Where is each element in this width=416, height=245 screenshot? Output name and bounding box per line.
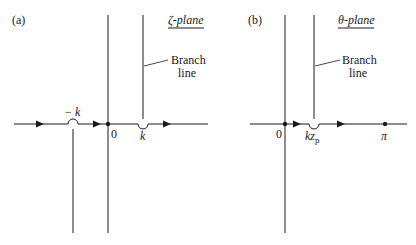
branch-label-a-2: line	[178, 66, 196, 80]
origin-dot-a	[106, 122, 110, 126]
theta-plane-title-text: θ-plane	[338, 13, 375, 27]
panel-a-label: (a)	[12, 13, 25, 27]
theta-plane-title: θ-plane	[338, 13, 375, 27]
arrow-icon	[337, 121, 345, 128]
origin-label-a: 0	[111, 127, 117, 141]
panel-b-label: (b)	[248, 13, 262, 27]
origin-dot-b	[283, 122, 287, 126]
pi-label: π	[381, 129, 388, 143]
branch-label-b-2: line	[349, 66, 367, 80]
zeta-plane-title-text: ζ-plane	[168, 13, 204, 27]
k-label: k	[140, 129, 146, 143]
origin-label-b: 0	[276, 127, 282, 141]
zeta-plane-title: ζ-plane	[168, 13, 204, 27]
panel-a: (a) ζ-plane Branch line − k 0 k	[12, 13, 208, 233]
panel-b: (b) θ-plane Branch line 0 kzp π	[248, 13, 407, 233]
arrow-icon	[163, 121, 171, 128]
kzp-label: kzp	[305, 129, 320, 145]
branch-label-a-1: Branch	[171, 53, 206, 67]
arrow-icon	[93, 121, 101, 128]
neg-k-label: − k	[64, 105, 81, 119]
contour-diagram: (a) ζ-plane Branch line − k 0 k (b) θ-pl…	[0, 0, 416, 245]
branch-label-b-1: Branch	[342, 53, 377, 67]
kzp-subscript: p	[315, 135, 320, 145]
pi-dot	[383, 122, 387, 126]
branch-pointer-b	[315, 60, 340, 66]
branch-pointer-a	[144, 60, 168, 66]
arrow-icon	[36, 121, 44, 128]
kzp-main: kz	[305, 129, 315, 143]
arrow-icon	[293, 121, 301, 128]
